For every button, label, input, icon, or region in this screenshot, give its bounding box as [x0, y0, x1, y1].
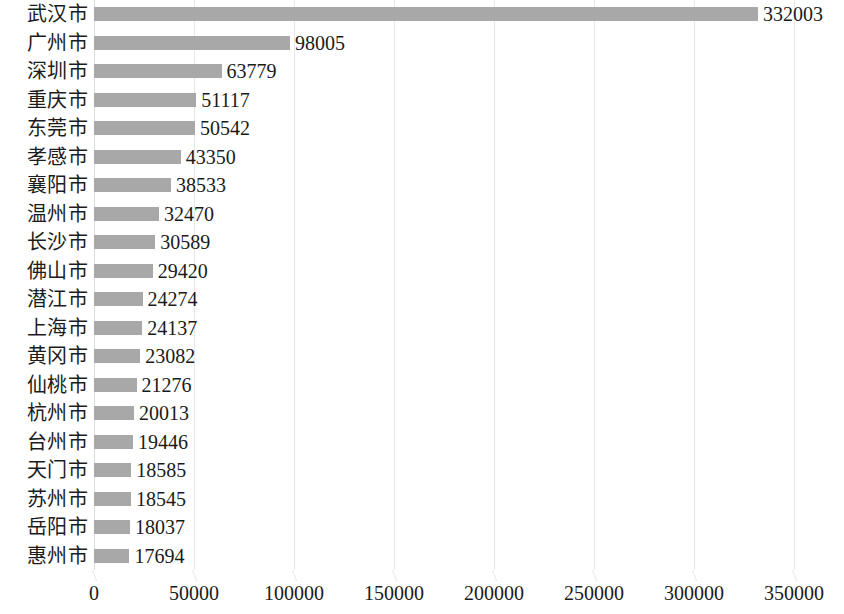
value-label: 20013	[139, 399, 189, 428]
category-label: 深圳市	[0, 57, 88, 86]
category-label: 惠州市	[0, 542, 88, 571]
value-label: 24137	[147, 314, 197, 343]
x-tick-label: 50000	[169, 582, 219, 605]
bar-row: 孝感市43350	[0, 143, 844, 172]
category-label: 重庆市	[0, 86, 88, 115]
bar-row: 襄阳市38533	[0, 171, 844, 200]
bar	[94, 264, 153, 278]
category-label: 长沙市	[0, 228, 88, 257]
bar-row: 黄冈市23082	[0, 342, 844, 371]
x-tick-mark	[492, 570, 506, 581]
bar-row: 苏州市18545	[0, 485, 844, 514]
value-label: 50542	[200, 114, 250, 143]
bar	[94, 150, 181, 164]
x-tick-label: 350000	[764, 582, 824, 605]
bar	[94, 93, 196, 107]
bar	[94, 406, 134, 420]
category-label: 温州市	[0, 200, 88, 229]
value-label: 18585	[136, 456, 186, 485]
value-label: 23082	[145, 342, 195, 371]
x-tick-mark	[92, 570, 106, 581]
bar	[94, 178, 171, 192]
x-tick-mark	[392, 570, 406, 581]
bar-chart: 武汉市332003广州市98005深圳市63779重庆市51117东莞市5054…	[0, 0, 844, 614]
bar-row: 岳阳市18037	[0, 513, 844, 542]
bar	[94, 492, 131, 506]
value-label: 30589	[160, 228, 210, 257]
value-label: 332003	[763, 0, 823, 29]
value-label: 17694	[134, 542, 184, 571]
value-label: 98005	[295, 29, 345, 58]
bar-row: 潜江市24274	[0, 285, 844, 314]
x-tick-label: 100000	[264, 582, 324, 605]
x-tick-label: 200000	[464, 582, 524, 605]
value-label: 63779	[227, 57, 277, 86]
x-tick-mark	[592, 570, 606, 581]
bar	[94, 64, 222, 78]
bar-row: 深圳市63779	[0, 57, 844, 86]
x-tick-label: 150000	[364, 582, 424, 605]
x-tick-mark	[192, 570, 206, 581]
category-label: 潜江市	[0, 285, 88, 314]
category-label: 苏州市	[0, 485, 88, 514]
bar	[94, 207, 159, 221]
category-label: 武汉市	[0, 0, 88, 29]
bar	[94, 292, 143, 306]
bar-row: 重庆市51117	[0, 86, 844, 115]
category-label: 岳阳市	[0, 513, 88, 542]
category-label: 天门市	[0, 456, 88, 485]
value-label: 18545	[136, 485, 186, 514]
category-label: 仙桃市	[0, 371, 88, 400]
bar-row: 温州市32470	[0, 200, 844, 229]
bar	[94, 435, 133, 449]
value-label: 43350	[186, 143, 236, 172]
bar	[94, 349, 140, 363]
x-tick-mark	[792, 570, 806, 581]
x-tick-label: 300000	[664, 582, 724, 605]
x-tick-label: 250000	[564, 582, 624, 605]
bar	[94, 321, 142, 335]
value-label: 38533	[176, 171, 226, 200]
bar-rows: 武汉市332003广州市98005深圳市63779重庆市51117东莞市5054…	[0, 0, 844, 570]
bar	[94, 463, 131, 477]
bar-row: 仙桃市21276	[0, 371, 844, 400]
value-label: 32470	[164, 200, 214, 229]
bar-row: 台州市19446	[0, 428, 844, 457]
x-axis: 0500001000001500002000002500003000003500…	[0, 570, 844, 614]
bar-row: 佛山市29420	[0, 257, 844, 286]
bar	[94, 7, 758, 21]
plot-area: 武汉市332003广州市98005深圳市63779重庆市51117东莞市5054…	[0, 0, 844, 570]
bar-row: 杭州市20013	[0, 399, 844, 428]
bar	[94, 520, 130, 534]
category-label: 上海市	[0, 314, 88, 343]
category-label: 襄阳市	[0, 171, 88, 200]
bar-row: 武汉市332003	[0, 0, 844, 29]
category-label: 广州市	[0, 29, 88, 58]
category-label: 黄冈市	[0, 342, 88, 371]
bar	[94, 549, 129, 563]
bar-row: 广州市98005	[0, 29, 844, 58]
bar	[94, 235, 155, 249]
x-tick-mark	[292, 570, 306, 581]
bar	[94, 121, 195, 135]
category-label: 台州市	[0, 428, 88, 457]
bar-row: 东莞市50542	[0, 114, 844, 143]
category-label: 孝感市	[0, 143, 88, 172]
value-label: 18037	[135, 513, 185, 542]
value-label: 29420	[158, 257, 208, 286]
bar	[94, 378, 137, 392]
bar-row: 天门市18585	[0, 456, 844, 485]
x-tick-mark	[692, 570, 706, 581]
bar-row: 长沙市30589	[0, 228, 844, 257]
value-label: 24274	[148, 285, 198, 314]
bar-row: 惠州市17694	[0, 542, 844, 571]
bar-row: 上海市24137	[0, 314, 844, 343]
x-tick-label: 0	[89, 582, 99, 605]
bar	[94, 36, 290, 50]
category-label: 佛山市	[0, 257, 88, 286]
value-label: 19446	[138, 428, 188, 457]
category-label: 东莞市	[0, 114, 88, 143]
value-label: 51117	[201, 86, 250, 115]
category-label: 杭州市	[0, 399, 88, 428]
value-label: 21276	[142, 371, 192, 400]
